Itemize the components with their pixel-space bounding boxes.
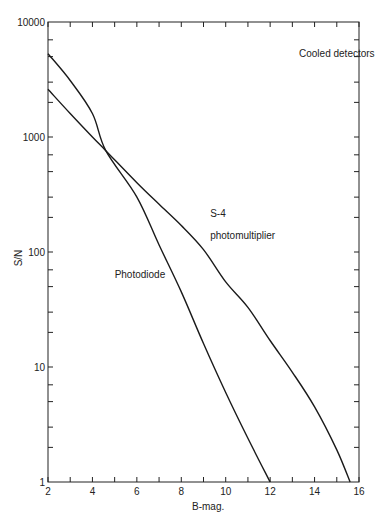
plot-axes	[48, 22, 359, 482]
y-tick-label: 1000	[23, 132, 46, 143]
sn-vs-bmag-chart: 246810121416 110100100010000 Cooled dete…	[0, 0, 380, 525]
annotation-label: Photodiode	[115, 269, 166, 280]
y-tick-label: 100	[28, 247, 45, 258]
x-tick-label: 10	[220, 486, 232, 497]
y-tick-label: 10	[34, 362, 46, 373]
data-curves	[48, 54, 350, 482]
x-tick-label: 8	[179, 486, 185, 497]
x-tick-label: 4	[90, 486, 96, 497]
x-tick-label: 6	[134, 486, 140, 497]
y-tick-label: 1	[39, 477, 45, 488]
x-tick-label: 14	[309, 486, 321, 497]
annotation-label: Cooled detectors	[299, 48, 375, 59]
x-tick-label: 16	[353, 486, 365, 497]
plot-frame	[48, 22, 359, 482]
y-tick-label: 10000	[17, 17, 45, 28]
annotation-label: S-4	[210, 208, 226, 219]
y-axis-label: S/N	[13, 250, 24, 267]
annotations: Cooled detectorsS-4photomultiplierPhotod…	[115, 48, 375, 280]
x-tick-label: 2	[45, 486, 51, 497]
annotation-label: photomultiplier	[210, 230, 276, 241]
x-axis-label: B-mag.	[192, 501, 224, 512]
x-axis-ticks: 246810121416	[45, 22, 365, 497]
y-axis-ticks: 110100100010000	[17, 17, 359, 488]
x-tick-label: 12	[265, 486, 277, 497]
s-4-photomultiplier-curve	[48, 89, 350, 482]
